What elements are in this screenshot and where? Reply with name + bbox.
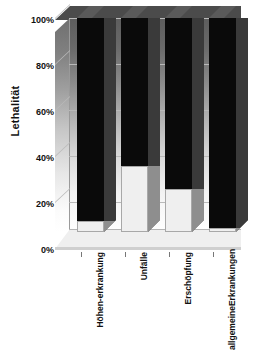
bar-side-face bbox=[236, 18, 248, 232]
bar-side-segment-dark bbox=[236, 18, 248, 228]
bar-3[interactable] bbox=[165, 18, 192, 232]
x-tick-mark bbox=[213, 252, 214, 257]
bar-side-segment-dark bbox=[192, 18, 204, 189]
bar-2[interactable] bbox=[121, 18, 148, 232]
y-axis-tick-labels: 100% 80% 60% 40% 20% 0% bbox=[18, 18, 54, 250]
bar-1[interactable] bbox=[77, 18, 104, 232]
x-tick-mark bbox=[81, 252, 82, 257]
x-axis-label-line1: allgemeine bbox=[227, 306, 237, 350]
bar-side-segment-dark bbox=[148, 18, 160, 166]
chart-container: Lethalität 100% 80% 60% 40% 20% 0% Höhen… bbox=[0, 0, 256, 353]
bar-segment-ueberlebt[interactable] bbox=[121, 166, 148, 232]
y-tick-80: 80% bbox=[18, 61, 54, 71]
bar-front-face bbox=[77, 18, 104, 232]
y-tick-20: 20% bbox=[18, 199, 54, 209]
plot-area bbox=[55, 18, 241, 250]
x-axis-label-line2: erkrankung bbox=[95, 252, 105, 298]
x-tick-mark bbox=[169, 252, 170, 257]
y-tick-60: 60% bbox=[18, 107, 54, 117]
y-tick-0: 0% bbox=[18, 245, 54, 255]
x-axis-label-line2: Erkrankungen bbox=[227, 249, 237, 306]
bar-side-segment-dark bbox=[104, 18, 116, 221]
x-axis-label-line1: Unfälle bbox=[139, 252, 149, 280]
bar-side-face bbox=[104, 18, 116, 232]
bar-front-face bbox=[121, 18, 148, 232]
bar-segment-ueberlebt[interactable] bbox=[165, 189, 192, 232]
bar-side-face bbox=[192, 18, 204, 232]
bar-segment-letal[interactable] bbox=[165, 18, 192, 189]
x-axis-label-line1: Höhen- bbox=[95, 298, 105, 327]
bar-segment-letal[interactable] bbox=[121, 18, 148, 166]
bar-front-face bbox=[165, 18, 192, 232]
y-tick-40: 40% bbox=[18, 153, 54, 163]
bar-4[interactable] bbox=[209, 18, 236, 232]
x-tick-mark bbox=[125, 252, 126, 257]
bar-side-face bbox=[148, 18, 160, 232]
x-axis-label-line1: Erschöpfung bbox=[183, 252, 193, 304]
bar-segment-ueberlebt[interactable] bbox=[77, 221, 104, 232]
bar-front-face bbox=[209, 18, 236, 232]
bar-segment-ueberlebt[interactable] bbox=[209, 228, 236, 232]
bar-segment-letal[interactable] bbox=[209, 18, 236, 228]
chart-floor-front bbox=[55, 247, 241, 250]
x-axis-category-labels: Höhen-erkrankungUnfälleErschöpfungallgem… bbox=[55, 252, 241, 352]
bar-segment-letal[interactable] bbox=[77, 18, 104, 221]
y-tick-100: 100% bbox=[18, 15, 54, 25]
